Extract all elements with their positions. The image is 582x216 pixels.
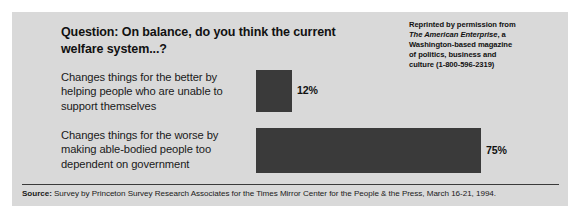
reprint-line-1: Reprinted by permission from [409,20,516,29]
bar-label-worse-line-3: dependent on government [61,158,189,170]
bar-label-worse: Changes things for the worse by making a… [61,128,257,171]
bar-row-worse: Changes things for the worse by making a… [12,128,568,173]
chart-figure: Question: On balance, do you think the c… [12,12,568,206]
footer-divider [22,184,559,185]
bar-label-better-line-1: Changes things for the better by [61,71,217,83]
reprint-permission-note: Reprinted by permission from The America… [409,20,561,70]
source-note: Source: Survey by Princeton Survey Resea… [22,188,562,199]
source-label: Source: [22,189,52,198]
bar-value-worse: 75% [486,144,507,156]
chart-header: Question: On balance, do you think the c… [12,12,568,64]
bar-value-better: 12% [297,84,318,96]
chart-plot-area: Changes things for the better by helping… [12,64,568,176]
question-line-2: welfare system...? [61,42,167,56]
source-text: Survey by Princeton Survey Research Asso… [52,189,496,198]
bar-label-better-line-3: support themselves [61,100,156,112]
bar-label-worse-line-2: making able-bodied people too [61,143,211,155]
bar-label-better: Changes things for the better by helping… [61,70,257,113]
bar-track-worse: 75% [256,128,556,173]
publication-name: The American Enterprise [409,30,497,39]
bar-label-worse-line-1: Changes things for the worse by [61,129,218,141]
reprint-line-3: Washington-based magazine [409,40,512,49]
reprint-line-4: of politics, business and [409,50,496,59]
question-line-1: Question: On balance, do you think the c… [61,25,336,39]
bar-label-better-line-2: helping people who are unable to [61,85,223,97]
bar-track-better: 12% [256,70,556,112]
bar-fill-better [256,70,292,112]
reprint-line-2-tail: , a [497,30,505,39]
bar-fill-worse [256,128,481,173]
bar-row-better: Changes things for the better by helping… [12,70,568,112]
chart-question-title: Question: On balance, do you think the c… [61,24,391,57]
